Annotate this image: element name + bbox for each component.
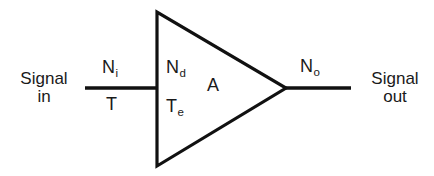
gain-symbol: A (207, 75, 219, 95)
effective-temperature-subscript: e (178, 106, 184, 118)
amplifier-noise-diagram: Signal in Ni T Nd A Te No Signal out (0, 0, 434, 176)
input-noise-symbol: N (102, 57, 115, 77)
output-noise-label: No (300, 57, 319, 76)
device-noise-subscript: d (180, 67, 186, 79)
signal-out-line1: Signal (371, 69, 418, 88)
gain-label: A (207, 76, 219, 95)
input-noise-subscript: i (116, 67, 119, 79)
device-noise-symbol: N (166, 57, 179, 77)
effective-temperature-label: Te (166, 97, 183, 116)
output-noise-symbol: N (300, 56, 313, 76)
amplifier-triangle-icon (157, 12, 286, 166)
input-noise-label: Ni (102, 58, 118, 77)
input-temperature-symbol: T (106, 94, 117, 114)
signal-in-label: Signal in (6, 70, 82, 106)
effective-temperature-symbol: T (166, 96, 177, 116)
signal-out-label: Signal out (358, 70, 432, 106)
signal-in-line1: Signal (20, 69, 67, 88)
input-temperature-label: T (106, 95, 117, 114)
signal-in-line2: in (6, 88, 82, 106)
output-noise-subscript: o (314, 66, 320, 78)
signal-out-line2: out (358, 88, 432, 106)
device-noise-label: Nd (166, 58, 185, 77)
